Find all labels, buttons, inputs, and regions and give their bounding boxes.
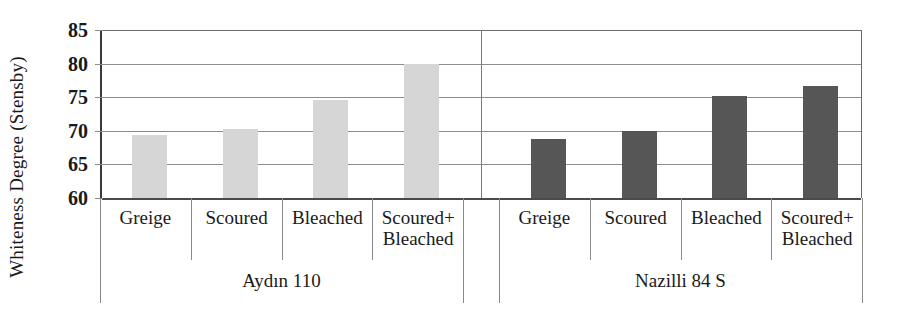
category-label-table: GreigeScouredBleachedScoured+ BleachedAy… [100, 198, 862, 303]
group-divider [481, 30, 482, 198]
category-label-cell: Bleached [282, 198, 373, 260]
bar [223, 129, 258, 198]
category-label-text: Bleached [283, 207, 373, 228]
bar [803, 86, 838, 198]
category-label-cell: Scoured+ Bleached [771, 198, 862, 260]
category-label-cell: Greige [499, 198, 590, 260]
category-label-cell: Scoured+ Bleached [372, 198, 463, 260]
bar [404, 64, 439, 198]
group-border [463, 198, 464, 303]
bar [313, 100, 348, 198]
bar [132, 135, 167, 198]
category-label-cell: Scoured [191, 198, 282, 260]
y-axis-title: Whiteness Degree (Stensby) [0, 0, 34, 333]
category-label-text: Greige [100, 207, 191, 228]
category-label-text: Scoured+ Bleached [772, 207, 862, 250]
category-label-text: Bleached [682, 207, 772, 228]
group-label: Aydın 110 [100, 260, 463, 303]
y-axis-tick-labels: 858075706560 [34, 0, 94, 333]
group-label: Nazilli 84 S [499, 260, 862, 303]
group-border [862, 198, 863, 303]
bar [622, 131, 657, 198]
category-label-text: Scoured [591, 207, 681, 228]
y-axis-title-text: Whiteness Degree (Stensby) [6, 56, 28, 278]
bar-chart-figure: Whiteness Degree (Stensby) 858075706560 … [0, 0, 898, 333]
y-tick-label: 60 [68, 187, 88, 210]
category-label-cell: Scoured [590, 198, 681, 260]
category-label-text: Greige [499, 207, 590, 228]
y-tick-label: 80 [68, 52, 88, 75]
category-label-text: Scoured+ Bleached [373, 207, 463, 250]
y-tick-label: 70 [68, 119, 88, 142]
y-tick-label: 65 [68, 153, 88, 176]
category-label-cell: Greige [100, 198, 191, 260]
y-tick-label: 85 [68, 19, 88, 42]
category-label-cell: Bleached [681, 198, 772, 260]
bar [712, 96, 747, 198]
bar [531, 139, 566, 198]
category-label-text: Scoured [192, 207, 282, 228]
y-tick-label: 75 [68, 86, 88, 109]
